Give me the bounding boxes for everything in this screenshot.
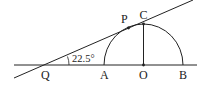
- point-O: [142, 64, 145, 67]
- label-Q: Q: [41, 68, 50, 82]
- label-P: P: [121, 12, 128, 26]
- label-A: A: [100, 68, 109, 82]
- angle-label: 22.5°: [72, 53, 95, 64]
- label-B: B: [179, 68, 187, 82]
- label-C: C: [140, 8, 148, 22]
- point-C: [142, 23, 145, 26]
- geometry-diagram: Q A O B C P 22.5°: [0, 0, 207, 91]
- point-P: [127, 27, 130, 30]
- angle-arc: [68, 57, 70, 66]
- label-O: O: [139, 68, 148, 82]
- tangent-line: [14, 0, 193, 78]
